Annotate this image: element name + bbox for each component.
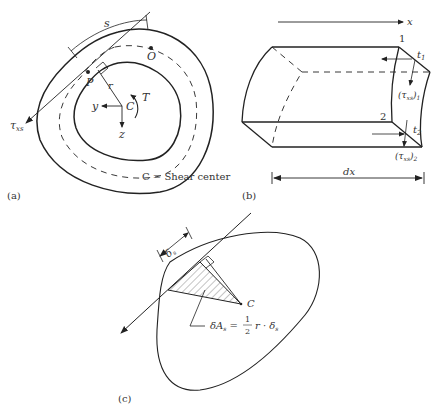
label-tau-xs: τxs — [10, 119, 24, 133]
area-formula: δAs = 1 2 r · δs — [210, 315, 278, 336]
panel-a: s O P r C T y z τxs C = Shear center (a) — [7, 12, 230, 201]
label-p: P — [85, 76, 94, 89]
label-tau2: (τxs)2 — [395, 151, 417, 162]
panel-c: δs C δAs = 1 2 r · δs (c) — [118, 213, 319, 404]
label-z: z — [118, 128, 125, 141]
label-t: T — [142, 91, 151, 104]
shear-center-caption: C = Shear center — [142, 171, 230, 182]
panel-b: x 1 2 t1 t2 (τxs)1 (τxs)2 — [242, 16, 430, 201]
svg-text:1: 1 — [245, 315, 250, 324]
svg-text:2: 2 — [245, 327, 250, 336]
label-o: O — [147, 50, 156, 63]
label-r: r — [108, 80, 114, 91]
label-y: y — [91, 100, 99, 113]
panel-c-tag: (c) — [118, 393, 132, 404]
label-x: x — [407, 16, 413, 27]
tangent-line-c — [121, 213, 251, 333]
svg-text:δAs =: δAs = — [210, 320, 238, 332]
label-1: 1 — [399, 33, 405, 44]
section-outline — [157, 232, 320, 390]
label-tau1: (τxs)1 — [398, 90, 420, 101]
label-c-panel-c: C — [247, 298, 255, 309]
label-dx: dx — [343, 166, 355, 177]
point-p — [86, 70, 90, 74]
label-2: 2 — [380, 111, 386, 122]
label-s: s — [104, 17, 110, 30]
panel-b-tag: (b) — [242, 190, 256, 201]
outer-wall-curve — [37, 29, 213, 193]
label-c: C — [126, 100, 135, 113]
label-t1: t1 — [417, 49, 426, 62]
area-triangle — [168, 262, 241, 304]
diagram-canvas: s O P r C T y z τxs C = Shear center (a)… — [0, 0, 442, 417]
svg-text:r · δs: r · δs — [255, 320, 278, 332]
panel-a-tag: (a) — [7, 190, 21, 201]
